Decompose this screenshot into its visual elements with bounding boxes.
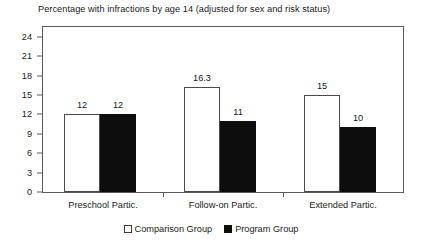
x-axis-tick-mark (163, 192, 164, 197)
plot-area (43, 27, 403, 192)
bar-program (340, 127, 376, 192)
x-axis-category-label: Preschool Partic. (68, 199, 137, 211)
y-axis-tick-label: 18 (22, 71, 32, 81)
chart-legend: Comparison GroupProgram Group (0, 224, 422, 234)
y-axis-tick-label: 0 (27, 187, 32, 197)
legend-label: Comparison Group (135, 224, 213, 234)
bar-value-label: 12 (77, 100, 87, 110)
bar-chart: Percentage with infractions by age 14 (a… (0, 0, 422, 245)
filled-square-swatch-icon (224, 225, 232, 233)
open-square-swatch-icon (124, 225, 132, 233)
x-axis-category-label: Follow-on Partic. (189, 199, 257, 211)
y-axis-tick-label: 12 (22, 109, 32, 119)
x-axis-category-label: Extended Partic. (309, 199, 376, 211)
y-axis-tick-label: 15 (22, 90, 32, 100)
legend-item: Comparison Group (124, 224, 213, 234)
y-axis-tick-label: 9 (27, 129, 32, 139)
bar-comparison (184, 87, 220, 192)
bar-comparison (304, 95, 340, 192)
bar-value-label: 10 (353, 113, 363, 123)
y-axis-tick-label: 24 (22, 32, 32, 42)
x-axis-tick-mark (283, 192, 284, 197)
bar-value-label: 11 (233, 107, 243, 117)
y-axis: 03691215182124 (0, 26, 42, 193)
bar-value-label: 16.3 (193, 73, 211, 83)
legend-item: Program Group (224, 224, 298, 234)
bar-comparison (64, 114, 100, 192)
chart-title: Percentage with infractions by age 14 (a… (38, 3, 330, 15)
y-axis-tick-label: 6 (27, 148, 32, 158)
y-axis-tick-label: 21 (22, 51, 32, 61)
y-axis-tick-label: 3 (27, 168, 32, 178)
bar-program (220, 121, 256, 192)
legend-label: Program Group (235, 224, 298, 234)
bar-program (100, 114, 136, 192)
bar-value-label: 15 (317, 81, 327, 91)
bar-value-label: 12 (113, 100, 123, 110)
